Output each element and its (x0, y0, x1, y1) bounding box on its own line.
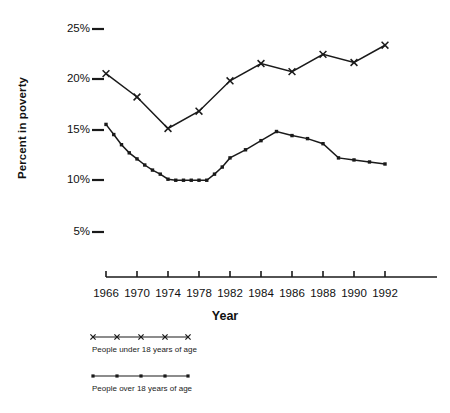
x-axis-ticks (106, 271, 385, 277)
data-point-marker-dot (104, 123, 107, 126)
data-point-marker-dot (213, 172, 216, 175)
data-point-marker-dot (174, 179, 177, 182)
data-point-marker-dot (275, 130, 278, 133)
legend-marks (90, 334, 190, 377)
data-point-marker-dot (128, 151, 131, 154)
data-point-marker-dot (221, 165, 224, 168)
series-line (106, 124, 385, 180)
legend-label-under18: People under 18 years of age (92, 345, 197, 354)
data-point-marker-dot (163, 374, 166, 377)
data-point-marker-dot (151, 168, 154, 171)
data-point-marker-dot (91, 374, 94, 377)
x-axis (106, 271, 437, 277)
y-axis-ticks (92, 29, 104, 232)
data-point-marker-dot (368, 160, 371, 163)
plot-area (0, 0, 450, 413)
data-point-marker-dot (159, 172, 162, 175)
data-point-marker-dot (205, 179, 208, 182)
data-point-marker-dot (143, 163, 146, 166)
poverty-line-chart: Percent in poverty 25% 20% 15% 10% 5% (0, 0, 450, 413)
data-point-marker-dot (139, 374, 142, 377)
series-people-under-18 (103, 42, 389, 132)
data-point-marker-dot (306, 137, 309, 140)
data-point-marker-dot (135, 157, 138, 160)
data-point-marker-dot (321, 142, 324, 145)
data-point-marker-dot (112, 133, 115, 136)
data-point-marker-dot (182, 179, 185, 182)
data-point-marker-dot (259, 139, 262, 142)
data-point-marker-dot (190, 179, 193, 182)
data-point-marker-dot (166, 178, 169, 181)
data-point-marker-dot (337, 156, 340, 159)
data-point-marker-dot (197, 179, 200, 182)
data-point-marker-dot (352, 158, 355, 161)
legend-label-over18: People over 18 years of age (92, 384, 192, 393)
data-point-marker-dot (244, 148, 247, 151)
x-axis-title: Year (0, 309, 450, 323)
data-point-marker-dot (186, 374, 189, 377)
data-point-marker-dot (228, 156, 231, 159)
series-people-over-18 (104, 123, 386, 182)
data-point-marker-dot (120, 143, 123, 146)
series-line (106, 45, 385, 128)
data-point-marker-dot (383, 162, 386, 165)
data-point-marker-dot (290, 134, 293, 137)
data-point-marker-dot (115, 374, 118, 377)
x-tick-label-1992: 1992 (365, 287, 405, 299)
